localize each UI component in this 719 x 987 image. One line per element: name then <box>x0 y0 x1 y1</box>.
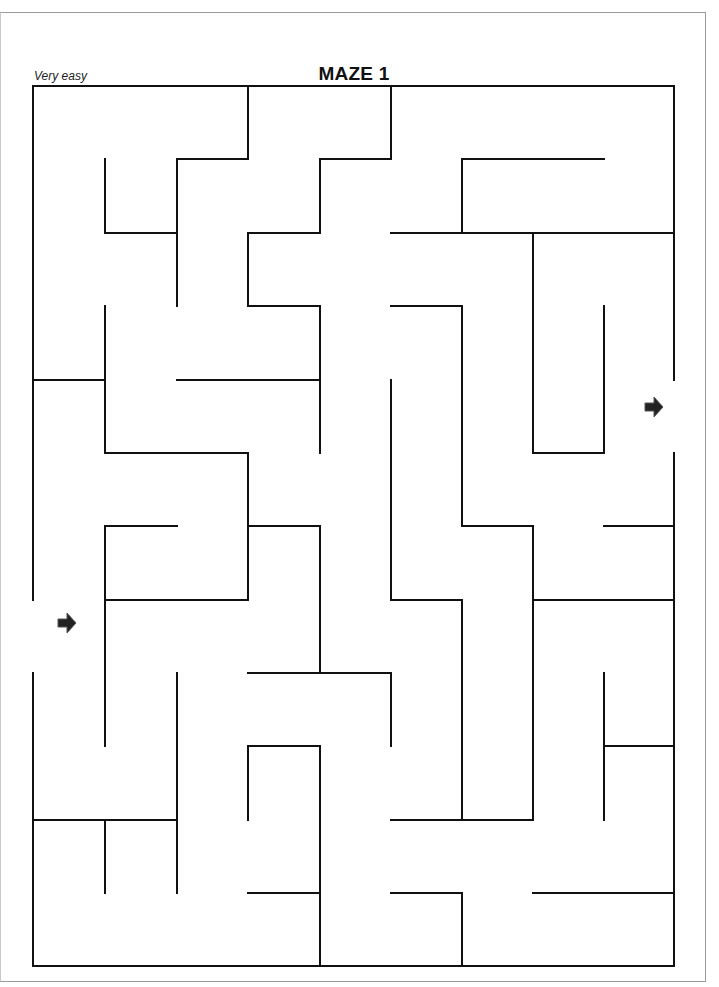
maze-grid[interactable] <box>0 0 719 987</box>
entrance-arrow-icon <box>57 612 77 634</box>
exit-arrow-icon <box>644 396 664 418</box>
